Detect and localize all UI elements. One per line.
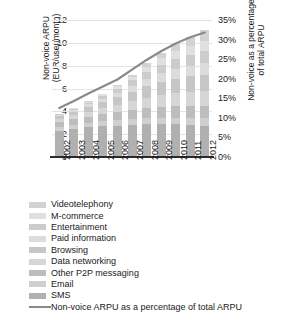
legend-item-line: Non-voice ARPU as a percentage of total … [29,302,279,313]
legend-swatch [29,270,46,276]
legend-swatch [29,202,46,208]
x-axis-line [50,156,214,158]
legend-swatch [29,213,46,219]
y-axis-right-tick-label: 0% [218,153,231,162]
legend-item-label: Entertainment [51,222,107,233]
plot-area [52,20,212,157]
legend-item: Paid information [29,233,279,244]
legend-item-label: Data networking [51,256,116,267]
legend-swatch [29,293,46,299]
legend-item: Other P2P messaging [29,267,279,278]
legend-item-label: M-commerce [51,211,104,222]
y-axis-right-title: Non-voice as a percentage of total ARPU [246,0,266,110]
y-axis-right-tick-label: 15% [218,94,236,103]
legend-item: SMS [29,290,279,301]
chart-legend: VideotelephonyM-commerceEntertainmentPai… [29,199,279,313]
legend-swatch [29,236,46,242]
legend-swatch [29,224,46,230]
line-series-path [59,33,204,109]
legend-swatch [29,247,46,253]
x-axis-tick-label: 2005 [107,140,116,160]
legend-item: Browsing [29,245,279,256]
y-axis-right-tick-label: 10% [218,114,236,123]
x-axis-tick-label: 2011 [194,141,203,160]
x-axis-tick-label: 2010 [180,140,189,160]
y-axis-right-tick-label: 20% [218,75,236,84]
legend-item-label: Browsing [51,245,88,256]
legend-swatch [29,259,46,265]
x-axis-tick-label: 2009 [165,140,174,160]
legend-line-swatch [29,306,51,309]
x-axis-tick-label: 2007 [136,140,145,160]
y-axis-right-title-line1: Non-voice as a percentage [246,0,256,101]
legend-item-label: Email [51,279,74,290]
x-axis-tick-label: 2003 [78,140,87,160]
x-axis-tick-label: 2006 [121,140,130,160]
legend-item-line-label: Non-voice ARPU as a percentage of total … [51,302,242,313]
x-axis-tick-label: 2002 [63,140,72,160]
legend-item: Data networking [29,256,279,267]
line-overlay [52,20,212,157]
x-axis-tick-label: 2012 [209,140,218,160]
y-axis-right-tick-label: 25% [218,55,236,64]
y-axis-right-title-line2: of total ARPU [256,24,266,75]
legend-item-label: Other P2P messaging [51,268,139,279]
legend-swatch [29,281,46,287]
legend-item: Videotelephony [29,199,279,210]
legend-item-label: Videotelephony [51,199,113,210]
legend-item: M-commerce [29,210,279,221]
legend-item-label: Paid information [51,233,116,244]
y-axis-right-tick-label: 35% [218,16,236,25]
legend-item-label: SMS [51,290,71,301]
legend-item: Entertainment [29,222,279,233]
y-axis-right-tick-label: 5% [218,133,231,142]
x-axis-tick-label: 2008 [151,140,160,160]
x-axis-tick-label: 2004 [92,140,101,160]
y-axis-right-tick-label: 30% [218,36,236,45]
y-axis-left-title-line1: Non-voice ARPU [41,16,51,80]
legend-item: Email [29,279,279,290]
chart-figure: Non-voice ARPU (EUR/user/month) Non-voic… [0,0,286,327]
